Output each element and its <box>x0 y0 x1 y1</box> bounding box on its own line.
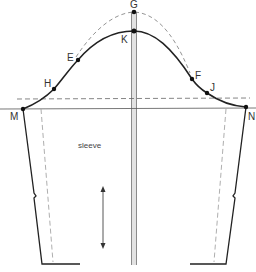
point-g <box>132 10 137 15</box>
point-n <box>244 105 248 109</box>
right-underarm-seam <box>190 107 246 264</box>
left-dashed-guide <box>41 109 53 262</box>
label-m: M <box>10 111 18 122</box>
center-band <box>131 12 137 265</box>
label-f: F <box>195 70 201 81</box>
label-g: G <box>130 0 138 10</box>
point-f <box>190 77 194 81</box>
point-e <box>76 58 80 62</box>
label-e: E <box>67 52 74 63</box>
point-j <box>205 91 209 95</box>
biceps-line <box>0 108 256 109</box>
sleeve-pattern-diagram: G K E H M F J N sleeve <box>0 0 256 272</box>
right-dashed-guide <box>214 109 226 262</box>
label-n: N <box>248 111 255 122</box>
label-h: H <box>44 78 51 89</box>
point-m <box>21 107 25 111</box>
grainline-arrow-icon <box>101 186 106 249</box>
point-h <box>52 87 56 91</box>
label-j: J <box>210 82 215 93</box>
pattern-piece-label: sleeve <box>78 141 102 150</box>
label-k: K <box>121 34 128 45</box>
point-k <box>132 29 137 34</box>
